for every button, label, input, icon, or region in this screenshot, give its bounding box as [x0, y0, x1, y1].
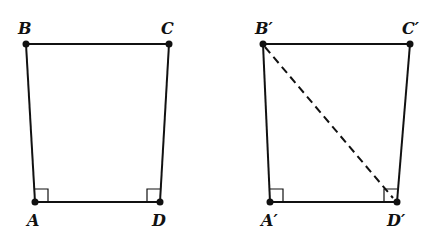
label-d: D	[151, 211, 166, 230]
label-a: A	[25, 211, 39, 230]
edge-c-prime-d-prime	[397, 44, 410, 202]
label-c-prime: C′	[402, 19, 420, 38]
vertex-a	[32, 199, 39, 206]
label-b: B	[17, 19, 32, 38]
vertex-b	[23, 41, 30, 48]
edge-ba	[26, 44, 35, 202]
label-c: C	[161, 19, 174, 38]
geometry-diagram: B C A D B′ C′ A′ D′	[0, 0, 434, 238]
figure-abcd: B C A D	[17, 19, 174, 230]
diagonal-b-prime-d-prime	[265, 47, 393, 198]
vertex-d-prime	[394, 199, 401, 206]
label-b-prime: B′	[254, 19, 274, 38]
vertex-a-prime	[267, 199, 274, 206]
vertex-b-prime	[260, 41, 267, 48]
edge-cd	[160, 44, 169, 202]
vertex-d	[157, 199, 164, 206]
vertex-c-prime	[407, 41, 414, 48]
vertex-c	[166, 41, 173, 48]
label-a-prime: A′	[259, 211, 278, 230]
edge-b-prime-a-prime	[263, 44, 270, 202]
label-d-prime: D′	[386, 211, 406, 230]
figure-abcd-prime: B′ C′ A′ D′	[254, 19, 420, 230]
